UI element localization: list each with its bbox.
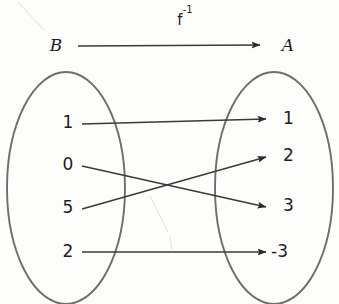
codomain-element-1: 2: [283, 145, 294, 165]
domain-set-label: B: [49, 35, 63, 55]
mapping-diagram: A --> B f-1 A 1 0 5 2 1 2 3 -3: [0, 0, 339, 304]
codomain-element-2: 3: [283, 195, 294, 215]
domain-element-2: 5: [63, 197, 74, 217]
scan-artifact: [150, 196, 168, 232]
codomain-element-3: -3: [271, 241, 288, 261]
function-label-exponent: -1: [183, 4, 193, 15]
domain-oval: [7, 72, 125, 304]
function-arrow: [78, 45, 260, 46]
scan-artifact: [18, 2, 44, 30]
domain-element-1: 0: [63, 154, 74, 174]
mapping-arrow-1-to-1: [82, 119, 266, 124]
codomain-set-label: A: [280, 35, 294, 55]
scan-artifact: [170, 236, 172, 250]
function-label: f-1: [177, 4, 192, 29]
diagram-canvas: A --> B f-1 A 1 0 5 2 1 2 3 -3: [0, 0, 339, 304]
domain-element-3: 2: [63, 241, 74, 261]
codomain-oval: [215, 72, 333, 304]
domain-element-0: 1: [63, 112, 74, 132]
codomain-element-0: 1: [283, 108, 294, 128]
